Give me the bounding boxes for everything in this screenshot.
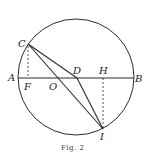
label-f: F [23,81,32,92]
label-i: I [99,131,105,142]
label-c: C [18,38,26,49]
figure-caption: Fig. 2 [61,144,84,152]
label-h: H [98,65,108,76]
label-d: D [72,65,81,76]
segment-cd [28,44,77,78]
segment-ci [28,44,103,129]
label-o: O [49,81,57,92]
label-a: A [7,72,15,83]
label-b: B [134,73,142,84]
geometry-diagram: C A F O D H B I Fig. 2 [0,0,149,161]
